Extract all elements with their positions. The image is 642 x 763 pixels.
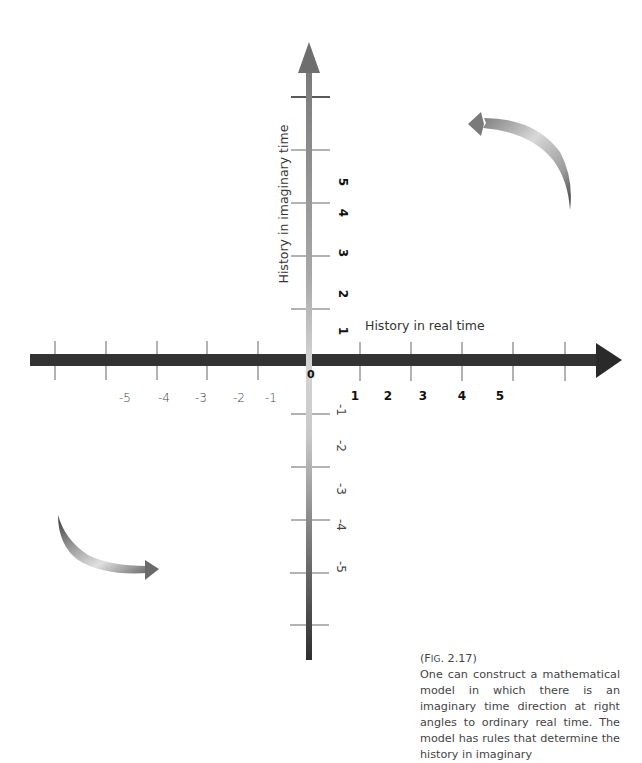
v-label-neg1: -1 bbox=[334, 400, 348, 420]
h-label-3: 3 bbox=[419, 389, 427, 403]
h-label-neg2: -2 bbox=[233, 391, 245, 405]
h-label-neg4: -4 bbox=[158, 391, 170, 405]
curved-arrow-left-icon bbox=[468, 112, 571, 210]
horizontal-axis-title: History in real time bbox=[365, 318, 485, 333]
v-label-neg5: -5 bbox=[334, 557, 348, 577]
h-label-neg5: -5 bbox=[119, 391, 131, 405]
vertical-axis bbox=[298, 42, 320, 660]
curved-arrow-right-icon bbox=[58, 515, 159, 580]
h-label-4: 4 bbox=[458, 389, 466, 403]
v-label-4: 4 bbox=[336, 203, 350, 223]
horizontal-axis bbox=[30, 343, 622, 378]
figure-label: (Fig. 2.17) bbox=[420, 651, 620, 667]
v-label-5: 5 bbox=[336, 172, 350, 192]
h-label-neg3: -3 bbox=[195, 391, 207, 405]
h-label-5: 5 bbox=[496, 389, 504, 403]
vertical-axis-title: History in imaginary time bbox=[276, 144, 291, 284]
v-label-neg2: -2 bbox=[334, 436, 348, 456]
v-label-neg3: -3 bbox=[334, 479, 348, 499]
caption-text: One can construct a mathematical model i… bbox=[420, 668, 620, 761]
v-label-neg4: -4 bbox=[334, 515, 348, 535]
v-label-1: 1 bbox=[336, 321, 350, 341]
figure-caption: (Fig. 2.17) One can construct a mathemat… bbox=[420, 651, 620, 763]
v-label-2: 2 bbox=[336, 284, 350, 304]
h-label-2: 2 bbox=[384, 389, 392, 403]
h-label-neg1: -1 bbox=[265, 391, 277, 405]
v-label-3: 3 bbox=[336, 243, 350, 263]
origin-label: 0 bbox=[307, 368, 315, 381]
h-label-1: 1 bbox=[351, 389, 359, 403]
